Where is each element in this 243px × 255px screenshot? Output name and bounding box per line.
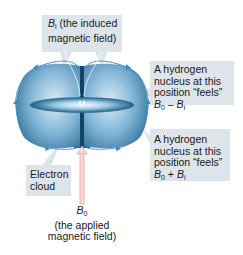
bi-symbol: B: [177, 98, 184, 110]
applied-field-symbol-line: B0: [42, 205, 122, 220]
applied-field-line3: magnetic field): [42, 231, 122, 243]
applied-field-arrow-shaft: [80, 152, 84, 204]
induced-field-text: (the induced: [57, 17, 118, 29]
bi-subscript: i: [184, 174, 186, 181]
bi-symbol: B: [177, 168, 184, 180]
plus-operator: +: [165, 168, 177, 180]
nucleus-plus-label: A hydrogen nucleus at this position “fee…: [150, 129, 230, 181]
induced-field-line1: Bi (the induced: [48, 18, 118, 33]
induced-field-symbol: B: [48, 17, 55, 29]
induced-field-line2: magnetic field): [48, 33, 118, 45]
b0-symbol: B: [154, 98, 161, 110]
electron-cloud-label: Electron cloud: [26, 165, 71, 196]
nucleus-marker: [83, 101, 85, 104]
b0-symbol: B: [154, 168, 161, 180]
nucleus-minus-expression: B0 – Bi: [154, 99, 230, 114]
applied-field-subscript: 0: [84, 210, 88, 217]
electron-orbit-disc: [30, 98, 134, 113]
applied-field-label: B0 (the applied magnetic field): [42, 205, 122, 243]
applied-field-symbol: B: [77, 204, 84, 216]
electron-cloud-line1: Electron: [30, 169, 67, 181]
nucleus-minus-label: A hydrogen nucleus at this position “fee…: [150, 61, 234, 105]
nucleus-minus-line1: A hydrogen: [154, 64, 230, 76]
diagram-canvas: Bi (the induced magnetic field) A hydrog…: [0, 0, 243, 255]
nucleus-plus-expression: B0 + Bi: [154, 169, 226, 184]
minus-operator: –: [165, 98, 177, 110]
induced-field-label: Bi (the induced magnetic field): [42, 15, 122, 52]
nucleus-plus-line1: A hydrogen: [154, 134, 226, 146]
electron-cloud-line2: cloud: [30, 181, 67, 193]
bi-subscript: i: [184, 104, 186, 111]
nucleus-marker: [79, 101, 81, 104]
